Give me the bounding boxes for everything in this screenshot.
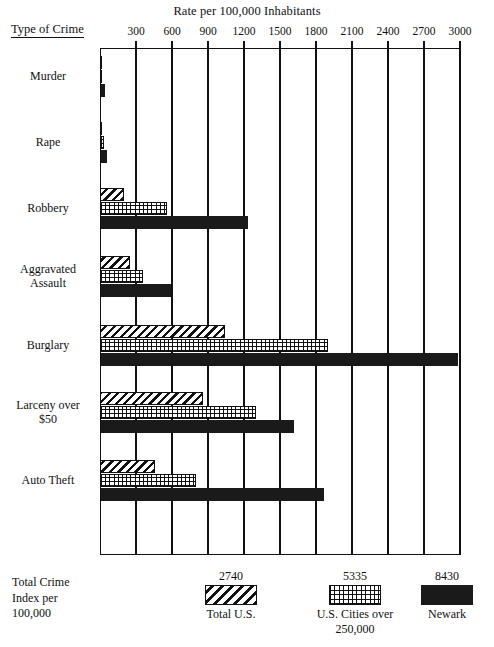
bar: [100, 56, 102, 69]
tick-label-2700: 2700: [413, 25, 436, 37]
tick-label-1200: 1200: [233, 25, 256, 37]
tick-mark-1800: [315, 41, 316, 48]
bar: [100, 325, 225, 338]
bar: [100, 70, 102, 83]
plot-area: 3006009001200150018002100240027003000: [100, 48, 460, 555]
bar-group: [100, 460, 460, 501]
tick-mark-600: [171, 41, 172, 48]
legend-value: 8430: [392, 569, 494, 583]
legend-label: Newark: [392, 607, 494, 622]
category-label-line: Assault: [0, 276, 96, 290]
category-label-line: Rape: [0, 135, 96, 149]
bar: [100, 216, 248, 229]
tick-label-2400: 2400: [377, 25, 400, 37]
bar: [100, 202, 167, 215]
tick-label-900: 900: [199, 25, 216, 37]
chart-legend: Total Crime Index per 100,000 2740Total …: [0, 565, 494, 647]
bar-group: [100, 392, 460, 433]
bar: [100, 353, 458, 366]
category-label-line: Aggravated: [0, 262, 96, 276]
bar: [100, 392, 203, 405]
tick-mark-300: [135, 41, 136, 48]
category-label-line: Auto Theft: [0, 473, 96, 487]
category-label: AggravatedAssault: [0, 262, 96, 290]
legend-item: 2740Total U.S.: [176, 569, 286, 622]
legend-value: 2740: [176, 569, 286, 583]
bar: [100, 406, 256, 419]
bar: [100, 84, 105, 97]
bar: [100, 284, 171, 297]
bar-group: [100, 325, 460, 366]
y-axis-title: Type of Crime: [11, 22, 84, 38]
chart-title: Rate per 100,000 Inhabitants: [0, 4, 494, 19]
bar-group: [100, 56, 460, 97]
category-label: Rape: [0, 135, 96, 149]
legend-swatch: [329, 585, 381, 605]
category-label: Burglary: [0, 338, 96, 352]
category-label-line: Burglary: [0, 338, 96, 352]
bar: [100, 474, 196, 487]
tick-label-600: 600: [163, 25, 180, 37]
tick-label-1500: 1500: [269, 25, 292, 37]
category-label-line: $50: [0, 412, 96, 426]
tick-mark-1200: [243, 41, 244, 48]
bar: [100, 188, 124, 201]
tick-label-3000: 3000: [449, 25, 472, 37]
category-label-line: Murder: [0, 69, 96, 83]
bar: [100, 122, 102, 135]
bar: [100, 256, 130, 269]
tick-mark-2700: [423, 41, 424, 48]
bar-group: [100, 256, 460, 297]
tick-label-300: 300: [127, 25, 144, 37]
tick-label-2100: 2100: [341, 25, 364, 37]
bar-group: [100, 122, 460, 163]
tick-mark-2100: [351, 41, 352, 48]
bar: [100, 488, 324, 501]
bar: [100, 270, 143, 283]
bar: [100, 420, 294, 433]
tick-label-1800: 1800: [305, 25, 328, 37]
legend-label: Total U.S.: [176, 607, 286, 622]
legend-title: Total Crime Index per 100,000: [12, 575, 69, 622]
bar: [100, 136, 104, 149]
category-label-line: Robbery: [0, 201, 96, 215]
bar: [100, 150, 107, 163]
bar: [100, 460, 155, 473]
tick-mark-3000: [459, 41, 460, 48]
bar: [100, 339, 328, 352]
category-label: Murder: [0, 69, 96, 83]
category-label: Robbery: [0, 201, 96, 215]
tick-mark-900: [207, 41, 208, 48]
legend-item: 8430Newark: [392, 569, 494, 622]
bar-group: [100, 188, 460, 229]
category-label-line: Larceny over: [0, 398, 96, 412]
category-label: Larceny over$50: [0, 398, 96, 426]
category-label: Auto Theft: [0, 473, 96, 487]
legend-swatch: [421, 585, 473, 605]
tick-mark-2400: [387, 41, 388, 48]
tick-mark-1500: [279, 41, 280, 48]
legend-swatch: [205, 585, 257, 605]
